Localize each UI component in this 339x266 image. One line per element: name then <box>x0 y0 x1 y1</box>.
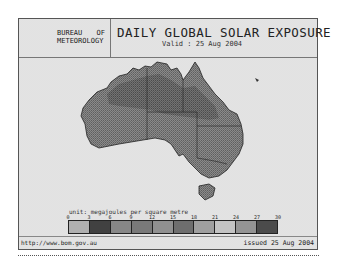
valid-date: Valid : 25 Aug 2004 <box>162 40 242 48</box>
logo-text-of: OF <box>97 29 105 37</box>
legend-swatch <box>236 221 257 233</box>
footer-divider <box>19 236 317 237</box>
legend-swatch <box>111 221 132 233</box>
header: BUREAU OF METEOROLOGY DAILY GLOBAL SOLAR… <box>19 19 317 58</box>
legend-swatch <box>174 221 195 233</box>
legend-swatch <box>132 221 153 233</box>
logo-text-meteorology: METEOROLOGY <box>57 37 110 45</box>
legend-color-bar <box>68 220 278 234</box>
australia-map <box>19 58 317 208</box>
legend-swatch <box>215 221 236 233</box>
map-frame: BUREAU OF METEOROLOGY DAILY GLOBAL SOLAR… <box>18 18 318 250</box>
tasmania <box>199 184 215 200</box>
legend-swatch <box>257 221 277 233</box>
logo-text-bureau: BUREAU <box>57 29 82 37</box>
island <box>255 78 259 82</box>
issued-date: issued 25 Aug 2004 <box>244 239 314 247</box>
bom-logo: BUREAU OF METEOROLOGY <box>19 19 111 57</box>
map-title: DAILY GLOBAL SOLAR EXPOSURE <box>117 25 331 40</box>
legend-swatch <box>90 221 111 233</box>
source-url[interactable]: http://www.bom.gov.au <box>21 239 97 246</box>
legend-swatch <box>153 221 174 233</box>
dotted-rule <box>18 255 320 256</box>
legend-swatch <box>69 221 90 233</box>
legend-swatch <box>194 221 215 233</box>
